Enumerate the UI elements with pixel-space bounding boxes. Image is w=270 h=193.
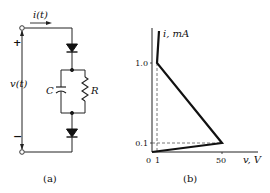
graph-caption: (b) <box>183 173 197 184</box>
x-tick-50: 50 <box>216 156 226 165</box>
y-tick-0-1: 0.1 <box>135 139 148 148</box>
x-axis-label: v, V <box>243 154 263 165</box>
terminal-bottom-icon <box>20 150 25 155</box>
y-axis-label: i, mA <box>163 28 189 39</box>
voltage-arrow-bottom-icon <box>20 144 24 150</box>
circuit-caption: (a) <box>43 173 57 184</box>
circuit-diagram <box>20 21 88 154</box>
top-wire <box>25 28 73 44</box>
minus-sign: − <box>13 130 22 143</box>
bottom-wire <box>25 137 73 152</box>
figure-canvas: i(t) + v(t) − C R (a) i, mA 1.0 0.1 0 1 … <box>0 0 270 193</box>
iv-graph <box>150 28 258 154</box>
y-axis-label-text: i, mA <box>163 28 189 39</box>
x-tick-1: 1 <box>155 156 160 165</box>
y-tick-1-0: 1.0 <box>135 59 148 68</box>
iv-curve <box>152 31 222 152</box>
diode-bottom-icon <box>67 129 78 137</box>
diode-top-icon <box>67 44 78 52</box>
x-tick-0: 0 <box>146 156 151 165</box>
resistor-label: R <box>90 85 99 96</box>
terminal-top-icon <box>20 26 25 31</box>
voltage-arrow-top-icon <box>20 30 24 36</box>
plus-sign: + <box>13 37 21 48</box>
capacitor-label: C <box>46 85 54 96</box>
current-label: i(t) <box>33 9 48 20</box>
resistor-icon <box>82 77 88 101</box>
voltage-label: v(t) <box>10 78 28 89</box>
current-arrow-head-icon <box>46 21 52 25</box>
